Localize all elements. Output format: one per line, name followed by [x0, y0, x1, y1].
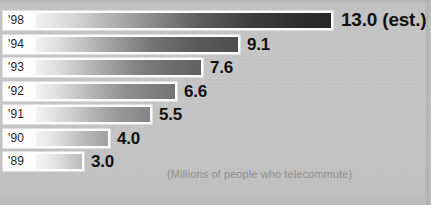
bar-year-label: '92	[8, 82, 24, 101]
bar-fill	[36, 154, 82, 169]
bar-value-label: 5.5	[159, 104, 182, 125]
bar-year-label: '91	[8, 105, 24, 124]
bar-year-label: '98	[8, 11, 24, 30]
bar-year-label: '93	[8, 58, 24, 77]
bar-year-label: '90	[8, 129, 24, 148]
bar-value-label: 7.6	[210, 57, 233, 78]
bar-value-label: 4.0	[117, 128, 140, 149]
bar-year-label: '94	[8, 35, 24, 54]
bar-fill	[36, 60, 201, 75]
bar-value-label: 3.0	[91, 151, 114, 172]
bar-value-label: 6.6	[184, 81, 207, 102]
bottom-edge-shading	[0, 195, 431, 205]
bar-fill	[36, 37, 238, 52]
bar-fill	[36, 107, 150, 122]
right-edge-shading	[426, 0, 431, 205]
bar-value-label: 9.1	[247, 34, 270, 55]
telecommuters-bar-chart: '98 13.0 (est.) '94 9.1 '93 7.6 '92 6.6 …	[0, 0, 431, 205]
chart-caption: (Millions of people who telecommute)	[167, 168, 352, 180]
bar-fill	[36, 84, 175, 99]
bar-fill	[36, 131, 108, 146]
bar-year-label: '89	[8, 152, 24, 171]
bar-value-label: 13.0 (est.)	[341, 9, 426, 30]
bar-fill	[36, 13, 331, 28]
top-edge-shading	[0, 0, 431, 7]
